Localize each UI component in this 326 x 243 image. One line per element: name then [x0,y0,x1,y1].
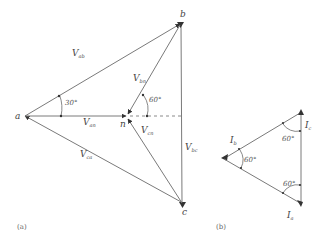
angle-label-60: 60° [149,96,161,104]
angle-label-30: 30° [65,99,77,107]
caption-a: (a) [17,223,27,231]
vector-vcn [128,119,182,203]
angle-arc-60 [144,96,148,116]
angle-label-b-top: 60° [282,135,294,143]
node-n-label: n [120,119,126,129]
arrowhead-ia [297,200,303,207]
label-vab: Vab [72,48,85,59]
label-vca: Vca [80,149,92,160]
label-ic: Ic [304,120,312,131]
label-vcn: Vcn [141,125,154,136]
panel-b: Ib Ic Ia 60° 60° 60° (b) [216,109,312,231]
label-vbc: Vbc [185,142,198,153]
angle-arc-b-left [240,150,243,168]
caption-b: (b) [216,223,226,231]
label-van: Van [83,117,96,128]
angle-label-b-left: 60° [244,156,256,164]
panel-a: a b c n Vab Vca Vbc Van Vbn Vcn 30° 60° … [15,9,198,231]
angle-arc-30 [60,95,62,116]
node-a-label: a [15,111,20,121]
arrowhead-ic [298,109,304,115]
label-vbn: Vbn [133,73,146,84]
label-ib: Ib [229,135,237,146]
arrowhead-ib [221,154,228,161]
angle-label-b-bottom: 60° [283,180,295,188]
vector-vca [25,116,183,203]
node-b-label: b [180,9,186,19]
label-ia: Ia [286,210,294,221]
angle-arc-b-top [283,124,300,131]
node-c-label: c [182,207,187,217]
vector-vbc [181,24,182,203]
phasor-diagram: a b c n Vab Vca Vbc Van Vbn Vcn 30° 60° … [0,0,326,243]
